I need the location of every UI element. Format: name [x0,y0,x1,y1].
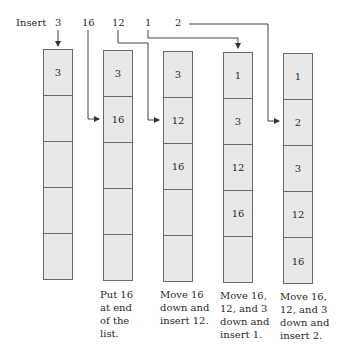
list-cell: 3 [164,52,192,98]
list-cell: 16 [104,97,132,143]
list-cell: 3 [284,146,312,192]
insert-value-12: 12 [112,17,125,29]
list-column-1: 3 [43,49,73,280]
list-cell [104,235,132,281]
list-cell: 12 [164,98,192,144]
list-cell [44,96,72,142]
insert-value-3: 3 [55,17,61,29]
list-column-4: 1 3 12 16 [223,52,253,283]
insert-label: Insert [16,17,46,29]
list-cell: 12 [284,192,312,238]
list-cell: 12 [224,145,252,191]
caption-column-4: Move 16, 12, and 3 down and insert 1. [220,289,269,341]
list-cell [44,142,72,188]
list-cell [104,143,132,189]
list-cell: 16 [164,144,192,190]
insert-value-16: 16 [82,17,95,29]
caption-column-2: Put 16 at end of the list. [100,288,133,340]
insert-value-1: 1 [145,17,151,29]
list-cell: 2 [284,100,312,146]
list-column-5: 1 2 3 12 16 [283,53,313,284]
list-cell [164,236,192,282]
list-cell [224,237,252,283]
arrow-insert-1 [148,30,238,48]
list-cell [164,190,192,236]
list-cell [104,189,132,235]
list-cell: 3 [224,99,252,145]
list-cell: 1 [224,53,252,99]
list-column-3: 3 12 16 [163,51,193,282]
list-column-2: 3 16 [103,50,133,281]
list-cell: 3 [104,51,132,97]
list-cell [44,188,72,234]
list-cell: 16 [284,238,312,284]
insert-value-2: 2 [175,17,181,29]
caption-column-5: Move 16, 12, and 3 down and insert 2. [280,290,329,342]
list-cell [44,234,72,280]
list-cell: 16 [224,191,252,237]
list-cell: 3 [44,50,72,96]
arrow-insert-16 [88,30,99,119]
caption-column-3: Move 16 down and insert 12. [160,288,209,327]
list-cell: 1 [284,54,312,100]
